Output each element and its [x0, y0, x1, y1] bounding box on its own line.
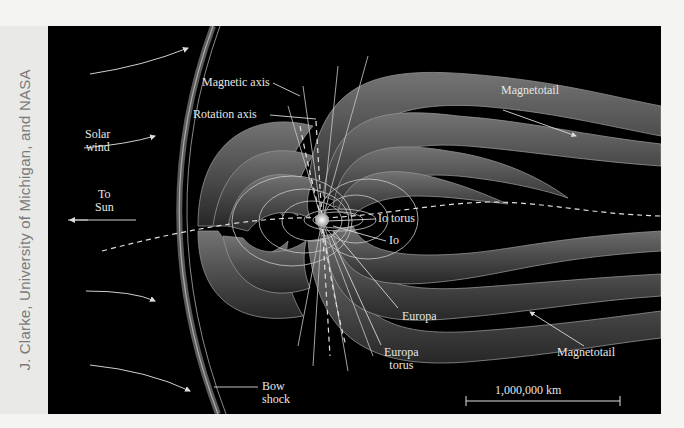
label-io: Io [389, 234, 399, 247]
image-credit: J. Clarke, University of Michigan, and N… [0, 26, 48, 414]
magnetosphere-diagram: Solarwind ToSun Magnetic axis Rotation a… [48, 26, 661, 414]
label-europa-torus: Europatorus [384, 346, 419, 372]
scale-bar [466, 396, 620, 406]
label-solar-wind: Solarwind [85, 128, 110, 154]
label-magnetic-axis: Magnetic axis [202, 76, 270, 89]
label-rotation-axis: Rotation axis [193, 108, 257, 121]
label-to-sun: ToSun [95, 188, 114, 214]
jupiter-planet [315, 213, 329, 227]
label-magnetotail-bottom: Magnetotail [557, 346, 615, 359]
credit-text: J. Clarke, University of Michigan, and N… [16, 69, 33, 370]
label-magnetotail-top: Magnetotail [501, 84, 559, 97]
label-scale-bar: 1,000,000 km [495, 384, 561, 397]
label-europa: Europa [402, 310, 437, 323]
label-io-torus: Io torus [378, 212, 415, 225]
label-bow-shock: Bowshock [262, 380, 290, 406]
